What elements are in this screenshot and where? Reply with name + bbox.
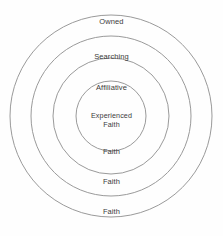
ring-third-circle	[53, 58, 169, 174]
rings-svg	[0, 0, 223, 236]
ring-core-circle	[76, 81, 146, 151]
ring-second-circle	[31, 36, 191, 196]
ring-outer-circle	[10, 15, 212, 217]
concentric-faith-diagram: Owned Searching Affiliative Experienced …	[0, 0, 223, 236]
